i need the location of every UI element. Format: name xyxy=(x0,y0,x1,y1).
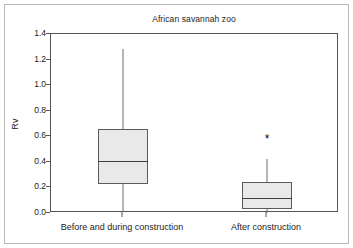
y-tick-label: 1.2 xyxy=(16,54,46,64)
median-line xyxy=(98,161,148,162)
y-tick-label: 1.0 xyxy=(16,79,46,89)
box-rect xyxy=(98,129,148,185)
x-tick-mark xyxy=(122,212,123,217)
y-tick-label: 0.6 xyxy=(16,130,46,140)
y-tick-label: 1.4 xyxy=(16,28,46,38)
upper-whisker xyxy=(123,49,124,129)
plot-area: * xyxy=(50,33,338,212)
lower-whisker xyxy=(267,209,268,213)
y-tick-label: 0.0 xyxy=(16,207,46,217)
x-tick-label: Before and during construction xyxy=(61,222,184,232)
lower-whisker xyxy=(123,184,124,212)
y-tick-mark xyxy=(46,212,50,213)
outlier-marker: * xyxy=(265,133,270,145)
upper-whisker xyxy=(267,159,268,182)
box-rect xyxy=(242,182,292,209)
y-axis-label: Rv xyxy=(10,118,20,129)
y-tick-label: 0.2 xyxy=(16,181,46,191)
x-tick-mark xyxy=(266,212,267,217)
y-tick-label: 0.8 xyxy=(16,105,46,115)
y-tick-label: 0.4 xyxy=(16,156,46,166)
figure: African savannah zoo Rv 0.00.20.40.60.81… xyxy=(0,0,353,248)
chart-title: African savannah zoo xyxy=(50,14,338,24)
median-line xyxy=(242,198,292,199)
x-tick-label: After construction xyxy=(231,222,301,232)
